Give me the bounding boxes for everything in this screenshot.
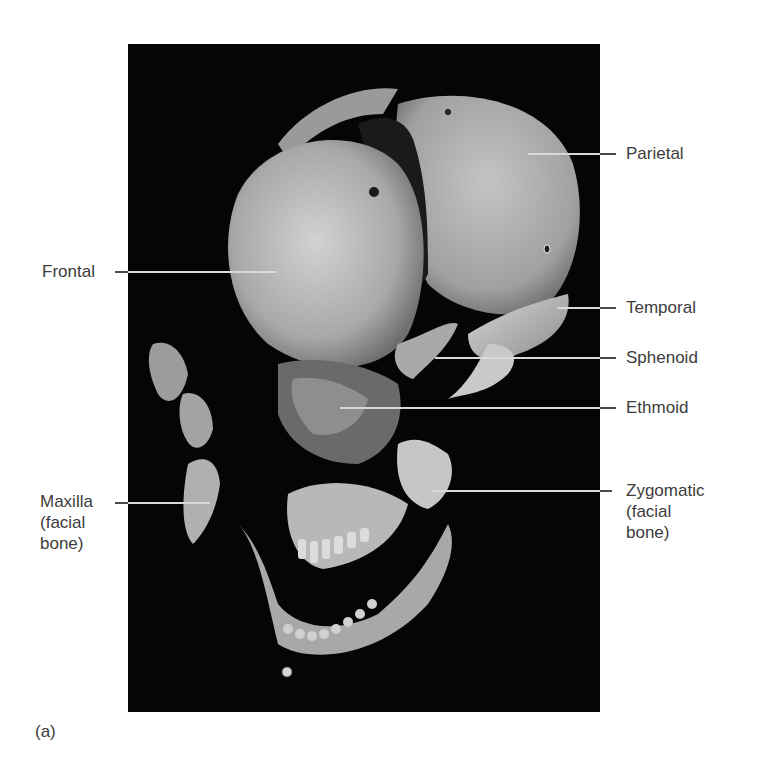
- label-frontal: Frontal: [42, 261, 95, 282]
- zygomatic-leader-inside: [432, 490, 600, 492]
- ethmoid-leader-inside: [340, 407, 600, 409]
- label-zygomatic: Zygomatic (facial bone): [626, 480, 704, 543]
- maxilla-leader-outside: [115, 502, 128, 504]
- frontal-leader-outside: [115, 271, 128, 273]
- temporal-leader-inside: [557, 307, 600, 309]
- frontal-bone: [228, 140, 424, 367]
- label-ethmoid: Ethmoid: [626, 397, 688, 418]
- parietal-leader-outside: [600, 153, 616, 155]
- label-temporal: Temporal: [626, 297, 696, 318]
- frontal-leader-inside: [128, 271, 277, 273]
- label-maxilla: Maxilla (facial bone): [40, 491, 93, 554]
- maxilla-leader-inside: [128, 502, 210, 504]
- ethmoid-leader-outside: [600, 407, 616, 409]
- zygomatic-bone: [397, 440, 452, 509]
- panel-label: (a): [35, 721, 56, 742]
- temporal-leader-outside: [600, 307, 616, 309]
- label-parietal: Parietal: [626, 143, 684, 164]
- skull-photograph: [128, 44, 600, 712]
- parietal-leader-inside: [528, 153, 600, 155]
- zygomatic-leader-outside: [600, 490, 612, 492]
- sphenoid-leader-outside: [600, 357, 616, 359]
- skull-illustration: [128, 44, 600, 712]
- sphenoid-leader-inside: [435, 357, 600, 359]
- label-sphenoid: Sphenoid: [626, 347, 698, 368]
